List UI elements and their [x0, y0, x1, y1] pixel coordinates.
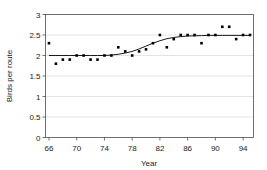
x-tick-label: 66	[45, 144, 54, 153]
data-point	[75, 54, 78, 57]
y-tick-label: 3	[36, 11, 41, 20]
data-point	[200, 42, 203, 45]
chart-container: 00.511.522.53 6670747882869094 Year Bird…	[0, 0, 267, 170]
data-point	[207, 34, 210, 37]
data-point	[193, 34, 196, 37]
data-point	[186, 34, 189, 37]
y-axis-ticks: 00.511.522.53	[29, 11, 45, 143]
data-point	[124, 50, 127, 53]
data-point	[68, 58, 71, 61]
data-point	[62, 58, 65, 61]
data-point	[96, 58, 99, 61]
x-tick-label: 82	[155, 144, 164, 153]
data-point	[235, 38, 238, 41]
data-point	[221, 26, 224, 29]
bird-abundance-scatter-chart: 00.511.522.53 6670747882869094 Year Bird…	[0, 0, 267, 170]
y-tick-label: 1	[36, 93, 41, 102]
y-tick-label: 2.5	[29, 31, 41, 40]
data-point	[166, 46, 169, 49]
x-tick-label: 74	[100, 144, 109, 153]
x-tick-label: 78	[128, 144, 137, 153]
data-point	[145, 48, 148, 51]
y-axis-title: Birds per route	[5, 49, 14, 102]
x-tick-label: 90	[211, 144, 220, 153]
data-point	[110, 54, 113, 57]
data-point	[117, 46, 120, 49]
x-tick-label: 70	[72, 144, 81, 153]
x-tick-label: 94	[239, 144, 248, 153]
data-point	[214, 34, 217, 37]
data-point	[82, 54, 85, 57]
data-point	[159, 34, 162, 37]
data-point	[172, 38, 175, 41]
data-point	[228, 26, 231, 29]
y-tick-label: 0	[36, 134, 41, 143]
data-point	[55, 62, 58, 65]
x-axis-title: Year	[141, 159, 158, 168]
data-point	[103, 54, 106, 57]
data-point	[242, 34, 245, 37]
x-axis-ticks: 6670747882869094	[45, 138, 249, 153]
data-point	[249, 34, 252, 37]
x-tick-label: 86	[183, 144, 192, 153]
data-point	[152, 42, 155, 45]
data-point	[179, 34, 182, 37]
data-point	[89, 58, 92, 61]
data-point	[131, 54, 134, 57]
data-point	[48, 42, 51, 45]
y-tick-label: 2	[36, 52, 41, 61]
data-points-group	[48, 26, 252, 66]
y-tick-label: 0.5	[29, 113, 41, 122]
gridlines-group	[46, 35, 254, 117]
y-tick-label: 1.5	[29, 72, 41, 81]
trend-line	[49, 35, 250, 55]
data-point	[138, 50, 141, 53]
